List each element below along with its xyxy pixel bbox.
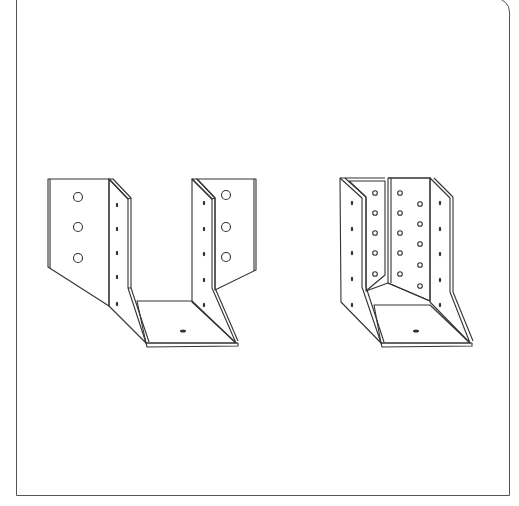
joist-hangers-drawing (0, 0, 519, 506)
right-joist-hanger (340, 178, 473, 347)
left-joist-hanger (48, 179, 256, 347)
